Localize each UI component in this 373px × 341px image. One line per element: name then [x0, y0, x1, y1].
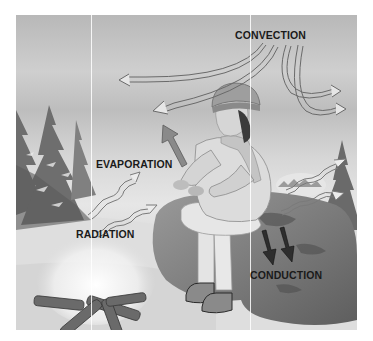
convection-arrow-3 [282, 45, 341, 98]
scan-seam-line [250, 15, 251, 330]
convection-arrow-4 [294, 45, 346, 115]
label-conduction: CONDUCTION [250, 270, 322, 281]
label-convection: CONVECTION [235, 30, 306, 41]
scene-artwork [16, 15, 357, 330]
label-radiation: RADIATION [76, 229, 134, 240]
scan-seam-line [91, 15, 92, 330]
heat-transfer-illustration: CONVECTION EVAPORATION RADIATION CONDUCT… [16, 15, 357, 330]
pine-trees-left [16, 105, 96, 230]
label-evaporation: EVAPORATION [96, 159, 173, 170]
convection-arrow-1 [119, 43, 266, 86]
radiation-arrow-left-1 [88, 172, 140, 219]
